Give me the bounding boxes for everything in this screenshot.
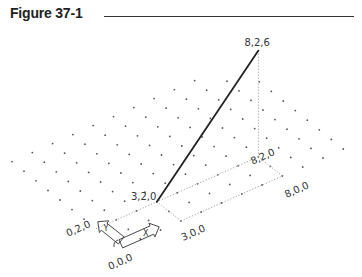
grid-dot	[270, 91, 272, 93]
grid-dot	[266, 137, 268, 139]
grid-dot	[64, 152, 66, 154]
grid-dot	[310, 148, 312, 150]
coord-label: 0,0,0	[106, 251, 134, 271]
grid-dot	[188, 202, 190, 204]
grid-dot	[128, 154, 130, 156]
grid-dot	[108, 163, 110, 165]
grid-dot	[96, 153, 98, 155]
grid-dot	[173, 164, 175, 166]
grid-dot	[165, 107, 167, 109]
grid-dot	[125, 125, 127, 127]
grid-dot	[72, 134, 74, 136]
grid-dot	[127, 229, 129, 231]
grid-dot	[59, 199, 61, 201]
grid-dot	[186, 98, 188, 100]
grid-dot	[92, 125, 94, 127]
grid-dot	[242, 118, 244, 120]
ucs-x-arrow-icon	[119, 223, 159, 248]
grid-dot	[230, 109, 232, 111]
grid-dot	[194, 80, 196, 82]
grid-dot	[294, 110, 296, 112]
grid-dot	[330, 139, 332, 141]
grid-dot	[226, 80, 228, 82]
grid-dot	[120, 172, 122, 174]
reference-line	[157, 202, 181, 221]
grid-dot	[209, 193, 211, 195]
grid-dot	[55, 171, 57, 173]
grid-dot	[145, 116, 147, 118]
grid-dot	[11, 161, 13, 163]
grid-dot	[116, 144, 118, 146]
grid-dot	[153, 98, 155, 100]
coord-label: 3,0,0	[179, 222, 207, 242]
grid-dot	[100, 181, 102, 183]
coordinate-labels: 8,2,63,2,08,2,08,0,03,0,00,2,00,0,0	[64, 37, 310, 272]
grid-dot	[174, 89, 176, 91]
grid-dots	[11, 80, 344, 240]
grid-dot	[88, 172, 90, 174]
grid-dot	[132, 182, 134, 184]
grid-dot	[302, 166, 304, 168]
grid-dot	[35, 180, 37, 182]
grid-dot	[249, 175, 251, 177]
coord-label: 3,2,0	[131, 191, 156, 202]
grid-dot	[278, 147, 280, 149]
grid-dot	[76, 162, 78, 164]
grid-dot	[31, 152, 33, 154]
grid-dot	[250, 100, 252, 102]
grid-dot	[274, 119, 276, 121]
grid-dot	[181, 145, 183, 147]
grid-dot	[205, 164, 207, 166]
grid-dot	[52, 143, 54, 145]
reference-line	[181, 176, 283, 221]
ucs-y-arrow-icon	[98, 221, 124, 244]
grid-dot	[112, 191, 114, 193]
3d-diagram: XY 8,2,63,2,08,2,08,0,03,0,00,2,00,0,0	[0, 0, 362, 277]
grid-dot	[79, 190, 81, 192]
grid-dot	[124, 200, 126, 202]
svg-text:Y: Y	[103, 224, 109, 233]
grid-dot	[177, 117, 179, 119]
grid-dot	[213, 146, 215, 148]
grid-dot	[47, 190, 49, 192]
grid-dot	[157, 126, 159, 128]
grid-dot	[318, 129, 320, 131]
ucs-icon: XY	[98, 221, 159, 248]
grid-dot	[286, 128, 288, 130]
grid-dot	[113, 116, 115, 118]
svg-text:X: X	[143, 229, 149, 238]
grid-dot	[140, 163, 142, 165]
grid-dot	[198, 108, 200, 110]
grid-dot	[306, 119, 308, 121]
grid-dot	[160, 229, 162, 231]
coord-label: 8,2,6	[244, 37, 269, 48]
grid-dot	[342, 148, 344, 150]
grid-dot	[229, 184, 231, 186]
grid-dot	[149, 145, 151, 147]
grid-dot	[67, 181, 69, 183]
grid-dot	[206, 89, 208, 91]
grid-dot	[262, 109, 264, 111]
grid-dot	[298, 138, 300, 140]
grid-dot	[193, 155, 195, 157]
grid-dot	[290, 157, 292, 159]
grid-dot	[103, 209, 105, 211]
grid-dot	[84, 143, 86, 145]
grid-dot	[152, 173, 154, 175]
grid-dot	[104, 134, 106, 136]
grid-dot	[225, 155, 227, 157]
grid-dot	[210, 118, 212, 120]
grid-dot	[322, 157, 324, 159]
grid-dot	[254, 128, 256, 130]
grid-dot	[185, 173, 187, 175]
coord-label: 8,2,0	[249, 146, 277, 166]
grid-dot	[234, 137, 236, 139]
grid-dot	[246, 146, 248, 148]
grid-dot	[169, 136, 171, 138]
grid-dot	[164, 182, 166, 184]
line-3d	[157, 51, 259, 202]
grid-dot	[23, 170, 25, 172]
grid-dot	[137, 135, 139, 137]
grid-dot	[189, 127, 191, 129]
grid-dot	[238, 90, 240, 92]
